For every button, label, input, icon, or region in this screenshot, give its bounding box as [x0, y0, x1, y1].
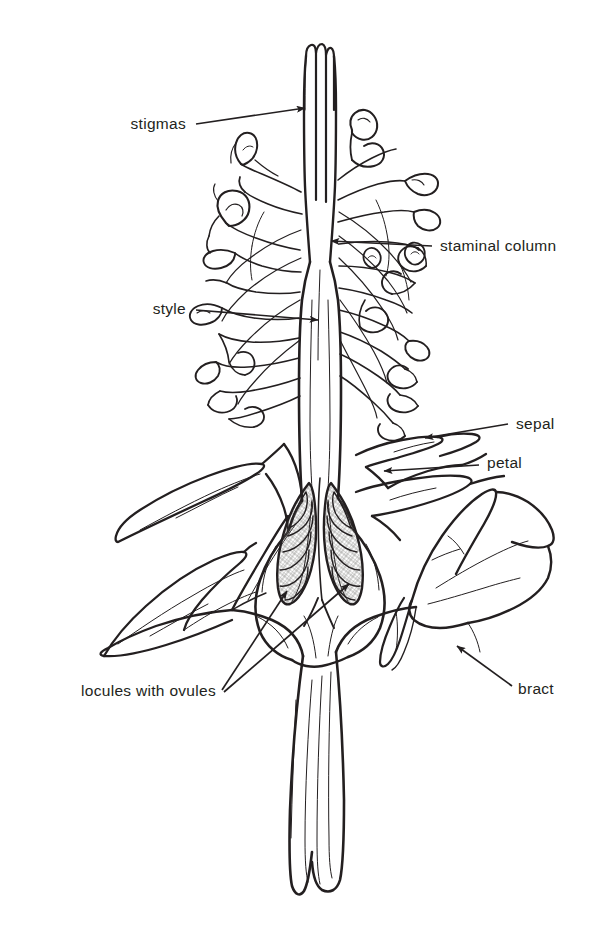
label-text-locules-with-ovules: locules with ovules [81, 682, 216, 699]
label-text-petal: petal [487, 454, 522, 471]
label-text-bract: bract [518, 680, 554, 697]
flower-diagram-figure: stigmas staminal column style sepal peta… [0, 0, 590, 945]
label-text-stigmas: stigmas [130, 115, 186, 132]
label-text-style: style [153, 300, 186, 317]
figure-background [0, 0, 590, 945]
label-text-sepal: sepal [516, 415, 555, 432]
flower-longitudinal-section-drawing: stigmas staminal column style sepal peta… [0, 0, 590, 945]
label-text-staminal-column: staminal column [440, 237, 557, 254]
